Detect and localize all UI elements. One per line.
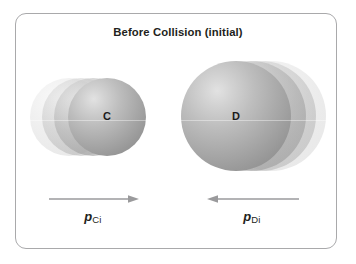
physics-collision-figure: Before Collision (initial) C D pCi pDi	[0, 0, 356, 264]
momentum-label-ci: pCi	[55, 209, 131, 225]
momentum-subscript-di: Di	[251, 214, 260, 225]
figure-title: Before Collision (initial)	[0, 26, 356, 38]
sphere-c-label: C	[90, 110, 124, 122]
momentum-subscript-ci: Ci	[92, 214, 101, 225]
sphere-d-label: D	[216, 110, 256, 122]
momentum-arrow-c-right-icon	[48, 191, 140, 207]
momentum-arrow-d-left-icon	[206, 191, 300, 207]
momentum-label-di: pDi	[214, 209, 290, 225]
scan-seam-line	[17, 120, 335, 121]
